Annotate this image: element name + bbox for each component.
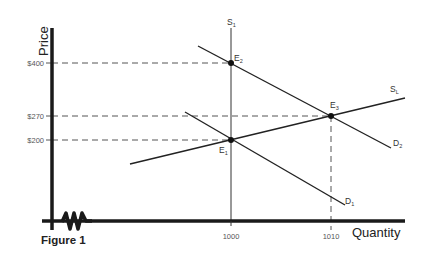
d2-label: D2: [393, 138, 402, 149]
x-axis-title: Quantity: [352, 225, 401, 240]
y-axis-title: Price: [36, 26, 51, 56]
guide-lines: [52, 63, 331, 230]
e1-point: [228, 137, 234, 143]
d2-curve: [198, 46, 391, 148]
x-tick-1010: 1010: [323, 232, 340, 241]
d1-curve: [185, 112, 345, 205]
x-tick-1000: 1000: [223, 232, 240, 241]
e3-label: E3: [330, 100, 339, 111]
e1-label: E1: [219, 145, 228, 156]
e2-label: E2: [234, 53, 243, 64]
axis-break-icon: [62, 213, 92, 229]
y-tick-400: $400: [27, 59, 44, 68]
d1-label: D1: [345, 196, 354, 207]
e3-point: [328, 113, 334, 119]
y-tick-200: $200: [27, 136, 44, 145]
s1-label: S1: [227, 17, 236, 28]
supply-demand-diagram: $400 $270 $200 1000 1010 Price Quantity …: [0, 0, 429, 256]
figure-caption: Figure 1: [41, 234, 86, 246]
sl-curve: [130, 98, 405, 164]
y-tick-270: $270: [27, 112, 44, 121]
sl-label: SL: [390, 84, 399, 95]
